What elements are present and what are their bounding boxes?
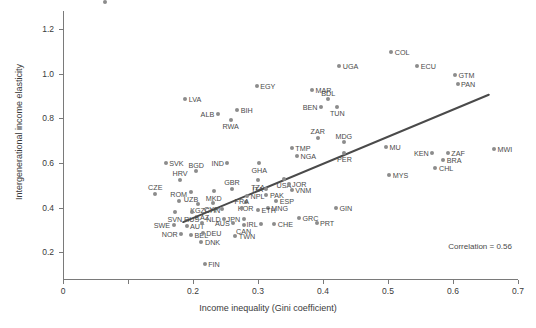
- data-point[interactable]: [287, 182, 291, 186]
- x-tick-mark: [193, 280, 194, 284]
- data-point[interactable]: [230, 187, 234, 191]
- data-point[interactable]: [259, 222, 263, 226]
- data-point[interactable]: [231, 221, 235, 225]
- data-point[interactable]: [201, 231, 205, 235]
- data-point-label: TUN: [330, 109, 345, 118]
- data-point[interactable]: [199, 240, 203, 244]
- x-tick-mark: [128, 280, 129, 284]
- data-point[interactable]: [384, 145, 388, 149]
- trend-line: [63, 11, 518, 279]
- data-point[interactable]: [225, 161, 229, 165]
- data-point-label: FIN: [208, 259, 220, 268]
- data-point[interactable]: [203, 262, 207, 266]
- y-axis-title: Intergenerational income elasticity: [14, 64, 24, 200]
- data-point[interactable]: [183, 97, 187, 101]
- data-point-label: MWI: [497, 145, 512, 154]
- data-point[interactable]: [290, 188, 294, 192]
- data-point[interactable]: [387, 173, 391, 177]
- data-point-label: BDL: [321, 88, 335, 97]
- data-point-label: GTM: [458, 70, 474, 79]
- data-point[interactable]: [233, 234, 237, 238]
- data-point-label: ALB: [201, 110, 215, 119]
- x-tick-label: 0.7: [512, 286, 524, 296]
- data-point[interactable]: [389, 50, 393, 54]
- data-point-label: IRL: [247, 220, 258, 229]
- y-axis-line: [63, 11, 64, 279]
- data-point[interactable]: [220, 207, 224, 211]
- data-point[interactable]: [433, 166, 437, 170]
- data-point-label: CHE: [278, 220, 293, 229]
- data-point-label: ECU: [421, 61, 436, 70]
- data-point-label: VNM: [295, 185, 311, 194]
- data-point[interactable]: [295, 154, 299, 158]
- y-tick-mark: [59, 208, 63, 209]
- data-point[interactable]: [319, 105, 323, 109]
- data-point[interactable]: [337, 64, 341, 68]
- data-point[interactable]: [290, 146, 294, 150]
- x-tick-mark: [63, 280, 64, 284]
- data-point-label: BIH: [241, 106, 253, 115]
- y-tick-mark: [59, 29, 63, 30]
- data-point-label: ROM: [170, 190, 187, 199]
- data-point[interactable]: [441, 158, 445, 162]
- data-point[interactable]: [492, 147, 496, 151]
- data-point[interactable]: [326, 97, 330, 101]
- data-point[interactable]: [189, 233, 193, 237]
- y-tick-label: 0.8: [0, 113, 54, 123]
- data-point[interactable]: [453, 73, 457, 77]
- data-point-label: RWA: [223, 122, 239, 131]
- data-point-label: NOR: [162, 229, 178, 238]
- data-point[interactable]: [310, 88, 314, 92]
- x-tick-label: 0.3: [252, 286, 264, 296]
- data-point[interactable]: [194, 169, 198, 173]
- y-tick-label: 1.2: [0, 24, 54, 34]
- x-tick-mark: [258, 280, 259, 284]
- data-point[interactable]: [297, 216, 301, 220]
- x-axis-title: Income inequality (Gini coefficient): [0, 303, 536, 313]
- data-point-label: FRA: [235, 197, 249, 206]
- data-point[interactable]: [264, 187, 268, 191]
- data-point[interactable]: [255, 84, 259, 88]
- data-point[interactable]: [415, 64, 419, 68]
- scatter-chart: COLUGAECUGTMPANEGYMARLVABDLBENTUNBIHALBR…: [0, 0, 536, 328]
- correlation-annotation: Correlation = 0.56: [448, 242, 512, 251]
- data-point[interactable]: [177, 199, 181, 203]
- data-point[interactable]: [216, 112, 220, 116]
- data-point-label: NPL: [250, 191, 264, 200]
- data-point[interactable]: [242, 217, 246, 221]
- data-point-label: COL: [395, 48, 410, 57]
- data-point[interactable]: [164, 161, 168, 165]
- data-point-label: GHA: [252, 165, 268, 174]
- data-point[interactable]: [456, 82, 460, 86]
- data-point-label: MDG: [335, 131, 352, 140]
- data-point-label: ZAR: [311, 127, 325, 136]
- data-point-label: GBR: [224, 178, 240, 187]
- data-point[interactable]: [430, 151, 434, 155]
- x-tick-label: 0.5: [382, 286, 394, 296]
- y-tick-mark: [59, 118, 63, 119]
- data-point-label: SWE: [154, 220, 170, 229]
- data-point-label: ETH: [262, 206, 276, 215]
- data-point[interactable]: [264, 193, 268, 197]
- data-point[interactable]: [235, 108, 239, 112]
- data-point[interactable]: [272, 222, 276, 226]
- x-tick-mark: [323, 280, 324, 284]
- data-point-label: PER: [337, 155, 352, 164]
- data-point[interactable]: [179, 232, 183, 236]
- data-point[interactable]: [178, 178, 182, 182]
- x-tick-label: 0.4: [317, 286, 329, 296]
- data-point[interactable]: [200, 221, 204, 225]
- data-point[interactable]: [240, 206, 244, 210]
- data-point[interactable]: [334, 206, 338, 210]
- data-point[interactable]: [342, 140, 346, 144]
- data-point-label: KAZ: [195, 212, 209, 221]
- data-point[interactable]: [172, 223, 176, 227]
- data-point[interactable]: [316, 136, 320, 140]
- data-point[interactable]: [185, 224, 189, 228]
- data-point[interactable]: [256, 208, 260, 212]
- data-point[interactable]: [153, 192, 157, 196]
- data-point-label: PAN: [461, 79, 475, 88]
- y-tick-label: 0.4: [0, 203, 54, 213]
- data-point-label: MYS: [393, 171, 409, 180]
- data-point[interactable]: [315, 221, 319, 225]
